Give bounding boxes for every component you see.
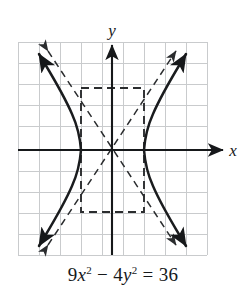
y-axis-label: y bbox=[106, 21, 116, 40]
eq-rhs: 36 bbox=[159, 264, 179, 285]
equation-caption: 9x2 − 4y2 = 36 bbox=[0, 256, 246, 293]
eq-var-x: x bbox=[78, 264, 87, 285]
eq-coef-y: 4 bbox=[113, 264, 123, 285]
eq-exp-y: 2 bbox=[132, 263, 138, 275]
equation-text: 9x2 − 4y2 = 36 bbox=[68, 264, 179, 286]
x-axis-label: x bbox=[228, 141, 237, 160]
graph-svg: y x bbox=[0, 0, 246, 293]
eq-coef-x: 9 bbox=[68, 264, 78, 285]
eq-var-y: y bbox=[123, 264, 132, 285]
eq-exp-x: 2 bbox=[86, 263, 92, 275]
eq-minus: − bbox=[97, 264, 108, 285]
eq-equals: = bbox=[143, 264, 154, 285]
hyperbola-figure: y x bbox=[0, 0, 246, 293]
